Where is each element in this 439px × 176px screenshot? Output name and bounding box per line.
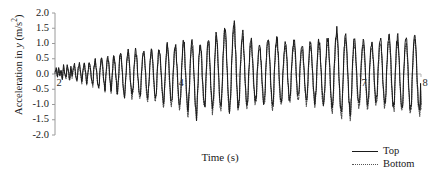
y-axis-title-unit-close: ) [13, 15, 24, 19]
y-axis-title-exponent: 2 [10, 18, 19, 22]
y-axis-title: Acceleration in y (m/s2) [10, 0, 24, 130]
legend-swatch-bottom-icon [352, 160, 378, 168]
y-axis-title-prefix: Acceleration in [13, 48, 24, 115]
y-axis-title-variable: y [13, 43, 24, 48]
x-tick-label: 4 [179, 78, 184, 88]
y-tick-label: -2.0 [19, 130, 49, 140]
x-axis-title: Time (s) [150, 151, 290, 163]
legend-swatch-top-icon [352, 147, 378, 155]
chart-legend: Top Bottom [352, 143, 415, 169]
acceleration-time-chart: 2.01.51.00.50.0-0.5-1.0-1.5-2.0 2478 Acc… [0, 0, 439, 176]
legend-item-bottom: Bottom [352, 156, 415, 169]
series-line-top [55, 21, 421, 121]
y-axis-title-unit: (m/s [13, 22, 24, 43]
x-tick-label: 2 [57, 78, 62, 88]
legend-label-top: Top [383, 145, 399, 156]
x-tick-label: 7 [362, 78, 367, 88]
legend-item-top: Top [352, 143, 415, 156]
x-tick-label: 8 [423, 78, 428, 88]
legend-label-bottom: Bottom [383, 158, 415, 169]
series-group [55, 21, 421, 121]
